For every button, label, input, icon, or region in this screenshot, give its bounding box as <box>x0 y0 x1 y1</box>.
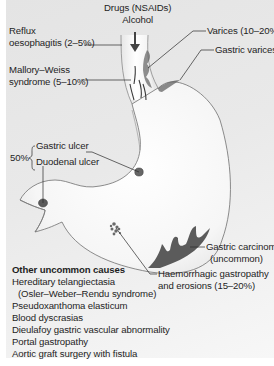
mallory-weiss-label-line1: Mallory–Weiss <box>9 64 88 76</box>
other-uncommon-causes: Other uncommon causes Hereditary telangi… <box>12 264 170 360</box>
duodenal-ulcer-label: Duodenal ulcer <box>36 156 99 168</box>
gastric-ulcer-text: Gastric ulcer <box>36 140 89 152</box>
ulcer-group-bracket <box>29 146 35 170</box>
cause-item: Blood dyscrasias <box>12 312 170 324</box>
varices-label: Varices (10–20%) <box>207 25 274 37</box>
cause-item: Aortic graft surgery with fistula <box>12 348 170 360</box>
other-causes-title: Other uncommon causes <box>12 264 170 276</box>
mallory-weiss-label: Mallory–Weiss syndrome (5–10%) <box>9 64 88 87</box>
cause-item: Dieulafoy gastric vascular abnormality <box>12 324 170 336</box>
cause-item: (Osler–Weber–Rendu syndrome) <box>12 288 170 300</box>
haemorrhagic-label: Haemorrhagic gastropathy and erosions (1… <box>158 268 269 291</box>
haemorrhagic-line2: and erosions (15–20%) <box>158 280 269 292</box>
reflux-label-line1: Reflux <box>9 25 95 37</box>
gastric-varices-label-text: Gastric varices <box>215 44 274 56</box>
gastric-carcinoma-line2: (uncommon) <box>206 253 274 265</box>
reflux-label: Reflux oesophagitis (2–5%) <box>9 25 95 48</box>
drugs-label-line2: Alcohol <box>104 14 171 26</box>
cause-item: Hereditary telangiectasia <box>12 276 170 288</box>
gastric-carcinoma-line1: Gastric carcinoma <box>206 241 274 253</box>
reflux-label-line2: oesophagitis (2–5%) <box>9 37 95 49</box>
cause-item: Pseudoxanthoma elasticum <box>12 300 170 312</box>
duodenal-ulcer-text: Duodenal ulcer <box>36 156 99 168</box>
varices-label-text: Varices (10–20%) <box>207 25 274 37</box>
drugs-label: Drugs (NSAIDs) Alcohol <box>104 2 171 25</box>
gastric-ulcer-label: Gastric ulcer <box>36 140 89 152</box>
ulcer-percent-label: 50% <box>10 152 29 164</box>
ulcer-percent-text: 50% <box>10 152 29 164</box>
drugs-label-line1: Drugs (NSAIDs) <box>104 2 171 14</box>
cause-item: Portal gastropathy <box>12 336 170 348</box>
gastric-varices-label: Gastric varices <box>215 44 274 56</box>
gastric-carcinoma-label: Gastric carcinoma (uncommon) <box>206 241 274 264</box>
haemorrhagic-line1: Haemorrhagic gastropathy <box>158 268 269 280</box>
mallory-weiss-label-line2: syndrome (5–10%) <box>9 76 88 88</box>
